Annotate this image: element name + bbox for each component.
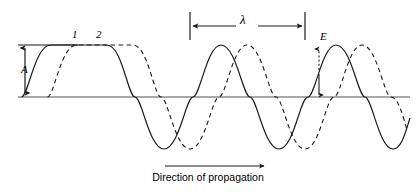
wave-2-label: 2 bbox=[96, 29, 102, 40]
energy-label: E bbox=[320, 31, 327, 42]
direction-of-propagation-caption: Direction of propagation bbox=[0, 172, 416, 183]
amplitude-label: A bbox=[21, 64, 28, 75]
wave-propagation-figure: 1 2 A λ E Direction of propagation bbox=[0, 0, 416, 196]
wave-diagram-canvas bbox=[0, 0, 416, 196]
wavelength-label: λ bbox=[240, 13, 246, 26]
wave-1-label: 1 bbox=[72, 29, 78, 40]
